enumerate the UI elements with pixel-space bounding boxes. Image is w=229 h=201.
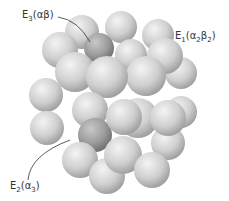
label-e3: E3(αβ): [22, 9, 54, 23]
label-e1: E1(α2β2): [175, 30, 216, 44]
label-e2: E2(α3): [10, 180, 40, 194]
protein-diagram: E3(αβ) E1(α2β2) E2(α3): [0, 0, 229, 201]
